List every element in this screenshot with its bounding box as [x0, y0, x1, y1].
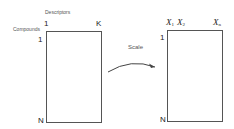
right-scaled-matrix: [167, 30, 223, 122]
right-last-row-label: N: [160, 116, 166, 124]
last-col-sub: n: [219, 22, 222, 27]
right-col2-label: X2: [177, 18, 185, 27]
right-first-row-label: 1: [160, 34, 164, 42]
col2-sub: 2: [183, 22, 186, 27]
right-col1-label: X1: [166, 18, 174, 27]
right-last-col-label: Xn: [213, 18, 221, 27]
col1-sub: 1: [172, 22, 175, 27]
